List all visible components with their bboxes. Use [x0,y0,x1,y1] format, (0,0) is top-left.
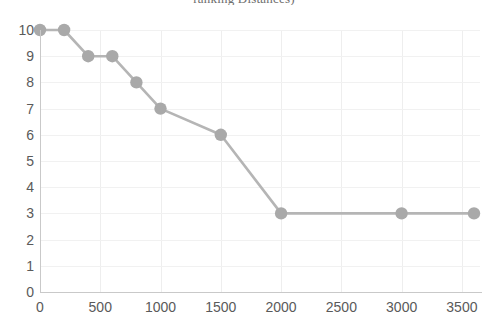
x-tick-label: 2500 [326,299,357,315]
x-tick-label: 0 [36,299,44,315]
chart-figure: ranking Distances) 012345678910 05001000… [0,0,488,326]
x-tick-label: 3000 [386,299,417,315]
x-axis-tick-labels: 0500100015002000250030003500 [0,0,488,326]
x-tick-label: 1000 [145,299,176,315]
x-tick-label: 3500 [446,299,477,315]
x-tick-label: 2000 [266,299,297,315]
x-tick-label: 1500 [205,299,236,315]
x-tick-label: 500 [89,299,112,315]
